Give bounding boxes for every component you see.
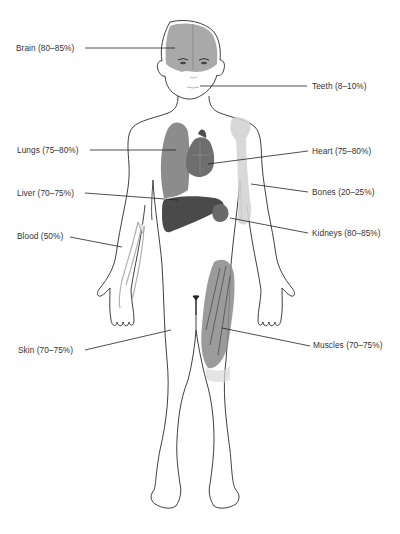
label-liver: Liver (70–75%) — [17, 188, 74, 198]
label-brain: Brain (80–85%) — [16, 43, 74, 53]
body-water-diagram: Brain (80–85%) Teeth (8–10%) Lungs (75–8… — [0, 0, 400, 534]
lung-shape — [161, 122, 190, 198]
label-lungs: Lungs (75–80%) — [17, 145, 79, 155]
label-blood: Blood (50%) — [17, 231, 63, 241]
label-skin: Skin (70–75%) — [18, 345, 73, 355]
label-teeth: Teeth (8–10%) — [312, 81, 367, 91]
label-kidneys: Kidneys (80–85%) — [312, 228, 381, 238]
label-muscles: Muscles (70–75%) — [313, 340, 383, 350]
label-heart: Heart (75–80%) — [312, 146, 371, 156]
kidney-shape — [212, 204, 228, 222]
head — [157, 20, 224, 99]
label-bones: Bones (20–25%) — [312, 187, 375, 197]
organs — [119, 117, 251, 382]
bone-shape — [230, 117, 251, 224]
